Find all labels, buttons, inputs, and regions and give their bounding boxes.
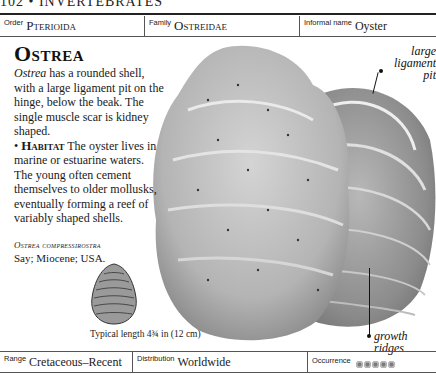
order-label: Order xyxy=(4,18,23,27)
habitat-label: Habitat xyxy=(21,138,64,153)
occurrence-rating xyxy=(356,361,395,368)
informal-name-cell: Informal name Oyster xyxy=(300,16,436,36)
genus-name: Ostrea xyxy=(14,66,46,80)
occurrence-cell: Occurrence xyxy=(308,352,436,372)
entry-title: Ostrea xyxy=(14,41,84,67)
distribution-value: Worldwide xyxy=(178,355,231,370)
annotation-ligament-dot xyxy=(379,69,383,73)
habitat-bullet: • xyxy=(14,139,18,153)
distribution-label: Distribution xyxy=(137,354,175,363)
annotation-ridges-dot xyxy=(367,334,371,338)
occurrence-dot-icon xyxy=(356,361,363,368)
annotation-ligament-pit: large ligament pit xyxy=(380,45,436,81)
oyster-shell-main-photo xyxy=(148,40,358,345)
occurrence-dot-icon xyxy=(372,361,379,368)
distribution-cell: Distribution Worldwide xyxy=(133,352,308,372)
informal-name-value: Oyster xyxy=(355,19,387,34)
family-cell: Family Ostreidae xyxy=(145,16,300,36)
classification-bar: Order Pterioida Family Ostreidae Informa… xyxy=(0,16,436,37)
range-bar: Range Cretaceous–Recent Distribution Wor… xyxy=(0,351,436,373)
size-caption: Typical length 4¾ in (12 cm) xyxy=(90,329,201,339)
range-value: Cretaceous–Recent xyxy=(29,355,122,370)
species-name: Ostrea compressirostra xyxy=(14,239,124,252)
family-value: Ostreidae xyxy=(174,18,227,34)
range-cell: Range Cretaceous–Recent xyxy=(0,352,133,372)
order-value: Pterioida xyxy=(26,18,76,34)
occurrence-dot-icon xyxy=(364,361,371,368)
running-head: 102 • INVERTEBRATES xyxy=(0,0,163,10)
informal-name-label: Informal name xyxy=(304,18,352,27)
occurrence-dot-icon xyxy=(388,361,395,368)
order-cell: Order Pterioida xyxy=(0,16,145,36)
range-label: Range xyxy=(4,354,26,363)
top-rule xyxy=(0,13,436,15)
species-shell-illustration xyxy=(82,262,146,326)
species-label: Ostrea compressirostra Say; Miocene; USA… xyxy=(14,239,124,264)
entry-description: Ostrea has a rounded shell, with a large… xyxy=(14,66,164,226)
annotation-ridges-leader xyxy=(369,268,370,335)
occurrence-label: Occurrence xyxy=(312,356,351,365)
family-label: Family xyxy=(149,18,171,27)
occurrence-dot-icon xyxy=(380,361,387,368)
